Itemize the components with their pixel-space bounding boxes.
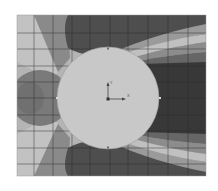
marker-bottom	[107, 147, 109, 149]
marker-right	[159, 97, 161, 99]
origin-marker	[107, 98, 110, 101]
marker-left	[56, 97, 58, 99]
marker-top	[107, 48, 109, 50]
x-axis-label: X	[127, 93, 130, 98]
y-axis-label: Y	[109, 80, 113, 85]
contour-plot: Y X	[0, 0, 218, 191]
